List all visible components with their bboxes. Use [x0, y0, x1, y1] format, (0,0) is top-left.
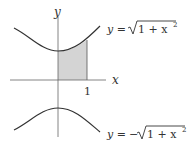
- y-axis-label: y: [53, 5, 61, 19]
- lower-curve-label: y = − 1 + x 2: [106, 126, 186, 141]
- svg-text:1 + x: 1 + x: [138, 23, 168, 36]
- svg-text:−: −: [129, 128, 138, 141]
- svg-text:2: 2: [182, 126, 186, 134]
- upper-curve-label: y = 1 + x 2: [106, 21, 177, 36]
- svg-text:y =: y =: [106, 23, 126, 36]
- shaded-region: [58, 40, 87, 80]
- hyperbola-graph: y x 1 y = 1 + x 2 y = − 1 + x 2: [0, 0, 188, 151]
- svg-text:2: 2: [173, 21, 177, 29]
- svg-text:y =: y =: [106, 128, 126, 141]
- x-axis-label: x: [112, 73, 119, 87]
- lower-curve: [14, 108, 100, 132]
- x-tick-label: 1: [84, 85, 91, 98]
- svg-text:1 + x: 1 + x: [147, 128, 177, 141]
